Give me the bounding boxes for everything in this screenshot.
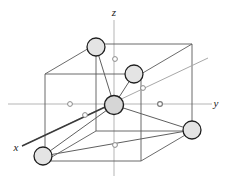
marker-top-icon bbox=[113, 57, 118, 62]
atom-lower-left[interactable] bbox=[34, 147, 52, 165]
bond-lower-left-to-right bbox=[43, 130, 192, 156]
atom-center[interactable] bbox=[105, 96, 124, 115]
atom-right[interactable] bbox=[183, 121, 201, 139]
unit-cell-figure: z y x bbox=[0, 0, 234, 183]
axis-label-z: z bbox=[111, 6, 117, 18]
cube-front-face bbox=[45, 74, 141, 161]
bond-center-to-right bbox=[114, 105, 192, 130]
marker-left-lower-icon bbox=[83, 113, 88, 118]
atom-upper-right[interactable] bbox=[125, 65, 143, 83]
axis-label-y: y bbox=[213, 97, 219, 109]
x-axis-bold-segment bbox=[22, 101, 118, 146]
cube-edge-bl bbox=[45, 131, 96, 161]
unit-cell-canvas: z y x bbox=[0, 0, 234, 183]
atom-top-back-left[interactable] bbox=[87, 38, 105, 56]
marker-upper-right-icon bbox=[141, 86, 146, 91]
marker-right-icon bbox=[158, 102, 163, 107]
marker-bottom-icon bbox=[113, 143, 118, 148]
marker-left-icon bbox=[68, 102, 73, 107]
axis-label-x: x bbox=[13, 141, 19, 153]
